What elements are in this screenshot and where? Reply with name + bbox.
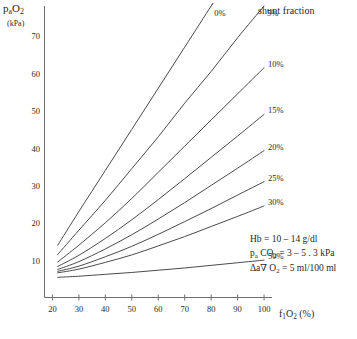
curve-label-30pct: 30% [268, 197, 284, 207]
y-tick-label: 70 [18, 31, 40, 41]
chart-plot-area [0, 0, 357, 339]
conditions-annotation-block: Hb = 10 – 14 g/dl pa CO2 = 3 – 5 . 3 kPa… [250, 234, 336, 277]
curve-label-25pct: 25% [268, 173, 284, 183]
curve-label-20pct: 20% [268, 142, 284, 152]
shunt-curve-25pct [58, 182, 264, 272]
x-tick-label: 20 [41, 304, 63, 314]
curve-label-0pct: 0% [214, 8, 225, 18]
y-tick-label: 60 [18, 69, 40, 79]
curve-label-5pct: 5% [267, 8, 278, 18]
note-paco2: pa CO2 = 3 – 5 . 3 kPa [250, 248, 336, 260]
x-axis-title: f1O2 (%) [279, 309, 314, 321]
x-tick-label: 60 [147, 304, 169, 314]
curve-label-15pct: 15% [268, 105, 284, 115]
note-hemoglobin: Hb = 10 – 14 g/dl [250, 234, 336, 246]
x-tick-label: 50 [121, 304, 143, 314]
curve-label-10pct: 10% [268, 59, 284, 69]
x-tick-label: 80 [200, 304, 222, 314]
y-tick-label: 50 [18, 106, 40, 116]
shunt-curve-0pct [58, 3, 213, 245]
y-axis-title: paO2 [3, 3, 24, 16]
iso-shunt-chart-figure: paO2 (kPa) f1O2 (%) shunt fraction 10203… [0, 0, 357, 339]
note-avo2-difference: Δa∇ O2 = 5 ml/100 ml [250, 263, 336, 275]
x-tick-label: 100 [253, 304, 275, 314]
axes-group [45, 6, 273, 301]
x-tick-label: 70 [174, 304, 196, 314]
shunt-curves-group [58, 3, 264, 277]
y-tick-label: 30 [18, 181, 40, 191]
x-tick-label: 40 [94, 304, 116, 314]
shunt-curve-15pct [58, 114, 264, 266]
y-axis-unit-label: (kPa) [7, 20, 24, 28]
y-tick-label: 20 [18, 218, 40, 228]
y-tick-label: 10 [18, 256, 40, 266]
x-tick-label: 90 [227, 304, 249, 314]
shunt-curve-20pct [58, 151, 264, 270]
x-tick-label: 30 [68, 304, 90, 314]
y-tick-label: 40 [18, 144, 40, 154]
